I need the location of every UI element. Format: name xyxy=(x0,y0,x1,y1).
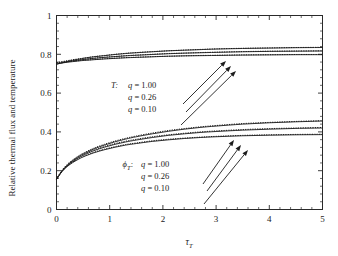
legend-upper-entry-0: q = 1.00 xyxy=(128,80,156,90)
y-axis-label: Relative thermal flux and temperature xyxy=(7,60,17,197)
y-tick-label: 0.6 xyxy=(40,88,52,98)
x-tick-label: 3 xyxy=(214,214,219,224)
y-tick-label: 0.8 xyxy=(40,50,52,60)
legend-lower-entry-0: q = 1.00 xyxy=(141,159,169,169)
legend-upper-entry-2: q = 0.10 xyxy=(128,104,156,114)
chart-canvas: Relative thermal flux and temperature 01… xyxy=(0,0,338,256)
legend-lower-entry-2: q = 0.10 xyxy=(141,183,169,193)
y-tick-label: 1 xyxy=(47,11,52,21)
legend-upper-group-label: T: xyxy=(111,80,118,90)
y-tick-label: 0.2 xyxy=(40,166,51,176)
x-tick-label: 0 xyxy=(54,214,59,224)
y-axis-label-text: Relative thermal flux and temperature xyxy=(7,60,17,197)
legend-lower-entry-1: q = 0.26 xyxy=(141,171,169,181)
legend-upper-entry-1: q = 0.26 xyxy=(128,92,156,102)
y-tick-label: 0.4 xyxy=(40,127,52,137)
y-tick-label: 0 xyxy=(47,205,52,215)
x-tick-label: 5 xyxy=(320,214,325,224)
x-axis-label-sub: T xyxy=(189,242,193,249)
x-tick-label: 1 xyxy=(107,214,112,224)
chart-figure: Relative thermal flux and temperature 01… xyxy=(0,0,338,256)
x-tick-label: 4 xyxy=(267,214,272,224)
x-tick-label: 2 xyxy=(161,214,166,224)
